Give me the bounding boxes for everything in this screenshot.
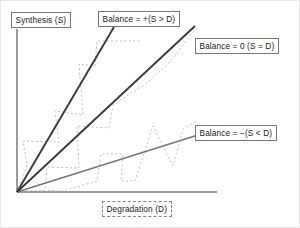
diagram-canvas: Synthesis (S) Balance = +(S > D) Balance… (0, 0, 300, 228)
trace-lower (17, 121, 197, 192)
label-negative-balance: Balance = −(S < D) (195, 125, 277, 141)
trace-upper (17, 41, 141, 192)
label-synthesis-axis: Synthesis (S) (11, 12, 71, 28)
line-zero-balance (17, 26, 195, 192)
line-negative-balance (17, 135, 198, 192)
label-degradation-axis: Degradation (D) (102, 201, 172, 217)
label-positive-balance: Balance = +(S > D) (98, 11, 180, 27)
balance-diagram-plot (1, 1, 300, 228)
label-zero-balance: Balance = 0 (S = D) (195, 38, 279, 54)
